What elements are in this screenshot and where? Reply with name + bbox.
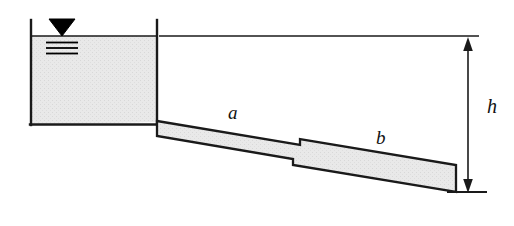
double-headed-vertical-arrow-icon bbox=[463, 37, 473, 193]
pipe-b-label: b bbox=[376, 128, 386, 147]
head-dimension-label: h bbox=[487, 96, 497, 116]
figure-container: a b h bbox=[0, 0, 514, 226]
pipe-a-label: a bbox=[228, 103, 238, 122]
reservoir-pipe-diagram bbox=[0, 0, 514, 226]
water-level-triangle bbox=[49, 19, 75, 36]
reservoir-tank bbox=[30, 20, 159, 125]
pipe-assembly bbox=[157, 121, 456, 192]
dimension-arrowhead-bottom bbox=[463, 179, 473, 193]
pipe-outline bbox=[157, 121, 456, 192]
dimension-arrowhead-top bbox=[463, 37, 473, 51]
tank-water-fill bbox=[30, 36, 158, 125]
